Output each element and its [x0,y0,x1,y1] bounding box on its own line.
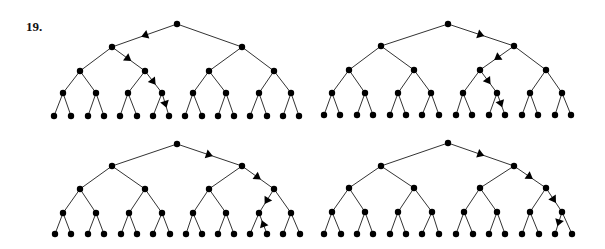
tree-edge [80,189,96,213]
tree-node [395,90,401,96]
tree-node [288,210,294,216]
leaf-node [215,113,221,119]
leaf-node [247,231,253,237]
tree-nodes [321,21,574,118]
tree-node [256,210,262,216]
tree-node [378,163,384,169]
tree-edge [381,24,448,46]
tree-node [109,163,115,169]
tree-node [271,186,277,192]
leaf-node [552,231,558,237]
tree-node [494,209,500,215]
leaf-node [453,231,459,237]
tree-node [378,43,384,49]
leaf-node [337,112,343,118]
tree-edge [63,71,80,93]
leaf-node [370,112,376,118]
tree-edge [463,70,480,93]
tree-edge [464,188,480,212]
tree-edge [522,212,530,234]
tree-edge [522,93,530,115]
tree-edge [88,93,96,116]
leaf-node [354,231,360,237]
leaf-node [101,231,107,237]
leaf-node [85,231,91,237]
tree-edge [431,93,439,115]
leaf-node [338,231,344,237]
tree-node [559,209,565,215]
tree-node [346,67,352,73]
tree-node [329,209,335,215]
tree-edge [456,93,463,115]
tree-edge [80,166,112,189]
tree-edge [398,93,406,115]
leaf-node [199,113,205,119]
tree-node [362,90,368,96]
tree-edge [186,213,193,234]
leaf-node [403,112,409,118]
leaf-node [264,113,270,119]
tree-edge [153,93,162,116]
leaf-node [419,112,425,118]
tree-edge [365,93,373,115]
tree-edge [218,213,226,234]
tree-node [288,90,294,96]
tree-edge [390,212,398,234]
tree-edge [226,93,234,116]
tree-node [511,43,517,49]
tree-edge [193,213,202,234]
leaf-node [536,231,542,237]
tree-top-left [51,21,302,119]
tree-edge [555,93,562,115]
tree-bottom-right [321,140,575,237]
tree-edge [332,93,340,115]
tree-node [477,67,483,73]
leaf-node [247,113,253,119]
tree-edge [177,24,242,47]
leaf-node [469,112,475,118]
tree-edge [514,46,546,70]
tree-edge [530,93,538,115]
tree-edge [80,47,112,71]
leaf-node [231,231,237,237]
tree-edge [259,93,267,116]
leaf-node [552,112,558,118]
leaf-node [68,113,74,119]
tree-edge [332,212,341,234]
leaf-node [85,113,91,119]
tree-edge [63,93,71,116]
leaf-node [486,231,492,237]
tree-edge [112,144,177,166]
tree-edge [463,93,472,115]
tree-edge [274,71,291,93]
arrow-down-icon [525,171,533,179]
tree-edge [530,188,546,212]
tree-node [223,90,229,96]
tree-edge [193,189,209,213]
tree-edge [390,93,398,115]
tree-edge [357,93,365,115]
tree-edge [193,93,202,116]
tree-edge [291,213,300,234]
tree-edge [422,212,432,234]
tree-top-right [321,21,574,118]
tree-edge [96,93,104,116]
tree-edge [55,213,63,234]
tree-edge [480,188,497,212]
tree-node [460,90,466,96]
tree-node [206,186,212,192]
tree-nodes [51,21,302,119]
leaf-node [296,113,302,119]
tree-edge [209,47,242,71]
arrow-down-icon [123,53,131,61]
tree-node [60,210,66,216]
tree-node [543,185,549,191]
leaf-node [321,112,327,118]
tree-node [411,67,417,73]
tree-edge [381,166,414,188]
tree-edge [283,93,291,116]
leaf-node [280,113,286,119]
tree-node [395,209,401,215]
tree-edge [112,166,145,189]
tree-edge [546,70,562,93]
